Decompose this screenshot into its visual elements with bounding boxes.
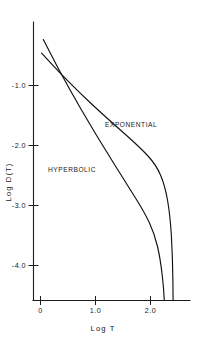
x-tick-label: 2.0 <box>145 306 156 315</box>
y-tick-label: -4.0 <box>12 261 26 270</box>
x-axis-title: Log T <box>91 324 116 333</box>
chart-svg: -1.0 -2.0 -3.0 -4.0 0 1.0 2.0 Log T Log … <box>0 0 202 338</box>
y-tick-label: -2.0 <box>12 141 26 150</box>
y-axis-title: Log D(T) <box>4 163 13 202</box>
x-tick-label: 0 <box>38 306 42 315</box>
chart-background <box>0 0 202 338</box>
exponential-curve-label: EXPONENTIAL <box>105 121 157 128</box>
y-tick-label: -3.0 <box>12 201 26 210</box>
x-tick-label: 1.0 <box>90 306 101 315</box>
y-tick-label: -1.0 <box>12 81 26 90</box>
hyperbolic-curve-label: HYPERBOLIC <box>48 166 96 173</box>
figure-container: -1.0 -2.0 -3.0 -4.0 0 1.0 2.0 Log T Log … <box>0 0 202 338</box>
